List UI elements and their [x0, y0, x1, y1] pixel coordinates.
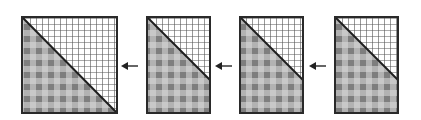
- quilt-block-sequence-diagram: [0, 0, 421, 120]
- arrow-left-icon: [121, 62, 138, 70]
- arrow-left-icon: [309, 62, 326, 70]
- panel-4: [335, 17, 398, 113]
- panel-3: [240, 17, 303, 113]
- panel-2: [147, 17, 210, 113]
- panel-1: [22, 17, 117, 113]
- arrow-left-icon: [215, 62, 232, 70]
